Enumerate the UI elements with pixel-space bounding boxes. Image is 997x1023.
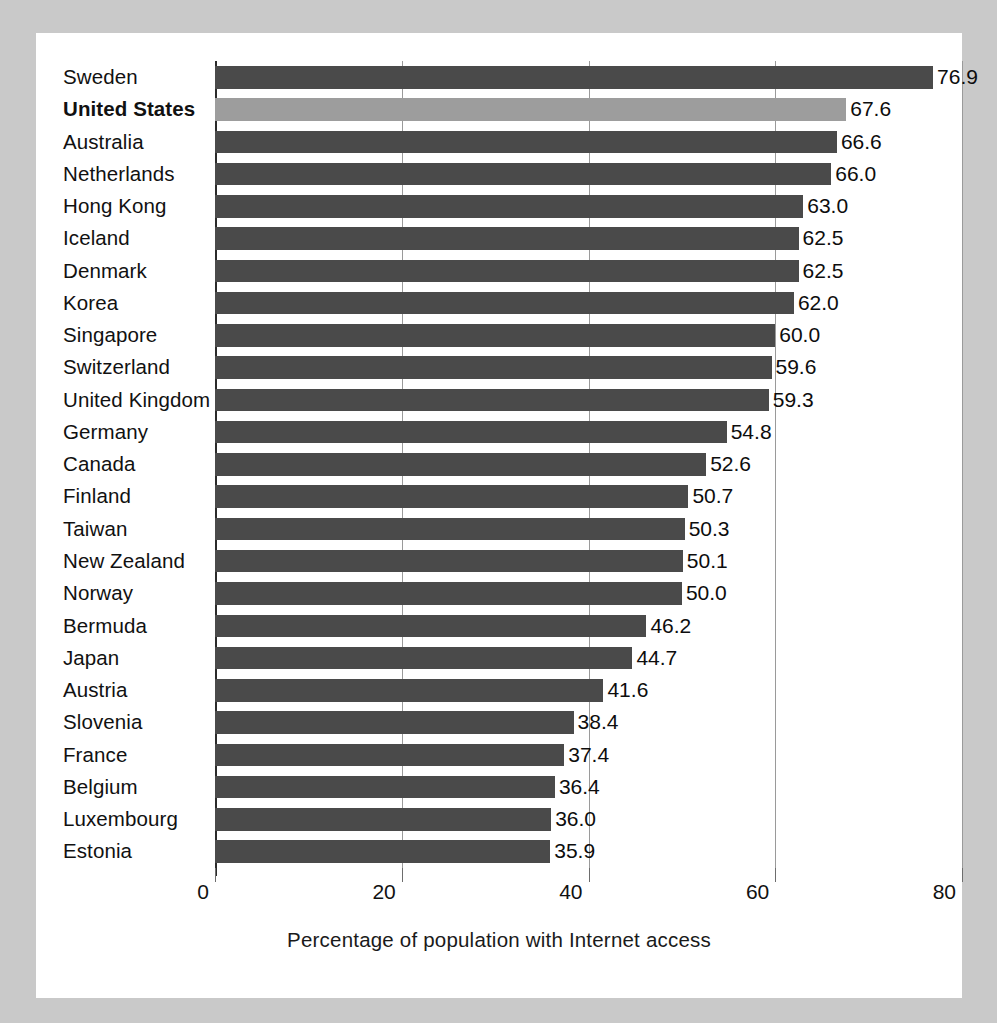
x-tick-label: 20	[372, 880, 401, 904]
bar-row[interactable]: Singapore60.0	[36, 319, 962, 351]
x-tick-20	[402, 868, 403, 882]
bar-row[interactable]: New Zealand50.1	[36, 545, 962, 577]
bar-row[interactable]: Korea62.0	[36, 287, 962, 319]
bar[interactable]	[215, 550, 683, 573]
bar-track: 66.6	[215, 126, 962, 158]
bar[interactable]	[215, 292, 794, 315]
bar-value-label: 41.6	[603, 674, 648, 706]
x-tick-label: 0	[197, 880, 215, 904]
bar[interactable]	[215, 131, 837, 154]
bar-row[interactable]: Germany54.8	[36, 416, 962, 448]
bar-row[interactable]: Belgium36.4	[36, 771, 962, 803]
bar[interactable]	[215, 485, 688, 508]
bar-row[interactable]: Denmark62.5	[36, 255, 962, 287]
bar-value-label: 52.6	[706, 448, 751, 480]
gridline-80	[962, 61, 963, 868]
bar[interactable]	[215, 711, 574, 734]
category-label: Sweden	[63, 61, 138, 93]
category-label: Taiwan	[63, 513, 127, 545]
bar[interactable]	[215, 582, 682, 605]
bar[interactable]	[215, 260, 799, 283]
bar-value-label: 66.6	[837, 126, 882, 158]
bar-row[interactable]: Australia66.6	[36, 126, 962, 158]
bar-track: 59.6	[215, 351, 962, 383]
bar-track: 46.2	[215, 610, 962, 642]
bar[interactable]	[215, 808, 551, 831]
bar[interactable]	[215, 679, 603, 702]
category-label: Austria	[63, 674, 128, 706]
bar-value-label: 46.2	[646, 610, 691, 642]
bar[interactable]	[215, 163, 831, 186]
bar-track: 50.0	[215, 577, 962, 609]
bar-track: 50.1	[215, 545, 962, 577]
bar-value-label: 62.5	[799, 222, 844, 254]
bar-row[interactable]: United States67.6	[36, 93, 962, 125]
category-label: Australia	[63, 126, 144, 158]
category-label: Korea	[63, 287, 118, 319]
bar-value-label: 60.0	[775, 319, 820, 351]
bar[interactable]	[215, 776, 555, 799]
category-label: Singapore	[63, 319, 157, 351]
x-axis-label: Percentage of population with Internet a…	[36, 928, 962, 952]
bar[interactable]	[215, 840, 550, 863]
category-label: Canada	[63, 448, 135, 480]
category-label: United Kingdom	[63, 384, 210, 416]
bar[interactable]	[215, 66, 933, 89]
bar-row[interactable]: Iceland62.5	[36, 222, 962, 254]
bar[interactable]	[215, 195, 803, 218]
bar-row[interactable]: Hong Kong63.0	[36, 190, 962, 222]
x-tick-label: 60	[746, 880, 775, 904]
bar[interactable]	[215, 389, 769, 412]
bar-track: 62.5	[215, 222, 962, 254]
bar-row[interactable]: Taiwan50.3	[36, 513, 962, 545]
bar-chart: Sweden76.9United States67.6Australia66.6…	[36, 33, 962, 998]
bar[interactable]	[215, 647, 632, 670]
bar-row[interactable]: Sweden76.9	[36, 61, 962, 93]
bar-row[interactable]: Japan44.7	[36, 642, 962, 674]
bar-track: 37.4	[215, 739, 962, 771]
bar-value-label: 66.0	[831, 158, 876, 190]
bar-row[interactable]: Slovenia38.4	[36, 706, 962, 738]
bar-track: 63.0	[215, 190, 962, 222]
bar-value-label: 38.4	[574, 706, 619, 738]
bar-row[interactable]: Switzerland59.6	[36, 351, 962, 383]
bar-row[interactable]: Norway50.0	[36, 577, 962, 609]
x-tick-60	[775, 868, 776, 882]
category-label: Belgium	[63, 771, 138, 803]
bar-row[interactable]: Finland50.7	[36, 480, 962, 512]
bar-value-label: 36.0	[551, 803, 596, 835]
bar[interactable]	[215, 324, 775, 347]
bar-track: 36.0	[215, 803, 962, 835]
bar-row[interactable]: Luxembourg36.0	[36, 803, 962, 835]
category-label: Netherlands	[63, 158, 175, 190]
bar[interactable]	[215, 744, 564, 767]
bar-value-label: 44.7	[632, 642, 677, 674]
bar[interactable]	[215, 227, 799, 250]
category-label: Slovenia	[63, 706, 142, 738]
bar-value-label: 35.9	[550, 835, 595, 867]
bar[interactable]	[215, 421, 727, 444]
bar-row[interactable]: France37.4	[36, 739, 962, 771]
bar[interactable]	[215, 615, 646, 638]
bar-row[interactable]: Canada52.6	[36, 448, 962, 480]
category-label: Denmark	[63, 255, 147, 287]
bar-value-label: 62.5	[799, 255, 844, 287]
bar-value-label: 37.4	[564, 739, 609, 771]
bar[interactable]	[215, 518, 685, 541]
category-label: Finland	[63, 480, 131, 512]
bar-row[interactable]: Estonia35.9	[36, 835, 962, 867]
bar-row[interactable]: United Kingdom59.3	[36, 384, 962, 416]
chart-card: Sweden76.9United States67.6Australia66.6…	[36, 33, 962, 998]
bar-value-label: 50.0	[682, 577, 727, 609]
bar-row[interactable]: Bermuda46.2	[36, 610, 962, 642]
bar[interactable]	[215, 98, 846, 121]
bar[interactable]	[215, 356, 772, 379]
bar-value-label: 76.9	[933, 61, 978, 93]
bar-value-label: 36.4	[555, 771, 600, 803]
bar-track: 50.7	[215, 480, 962, 512]
bar-row[interactable]: Netherlands66.0	[36, 158, 962, 190]
bar-track: 52.6	[215, 448, 962, 480]
bar-row[interactable]: Austria41.6	[36, 674, 962, 706]
bar[interactable]	[215, 453, 706, 476]
bar-track: 36.4	[215, 771, 962, 803]
